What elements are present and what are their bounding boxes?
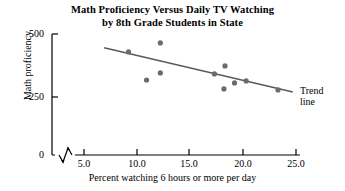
data-point: [232, 80, 237, 85]
data-point: [244, 78, 249, 83]
data-series-layer: [104, 40, 293, 92]
data-point: [221, 86, 226, 91]
chart-plot-area: [0, 0, 345, 191]
data-point: [275, 87, 280, 92]
trend-line: [104, 48, 293, 92]
axes: [52, 34, 300, 162]
chart-figure: Math Proficiency Versus Daily TV Watchin…: [0, 0, 345, 191]
data-point: [212, 71, 217, 76]
data-point: [158, 40, 163, 45]
data-point: [126, 49, 131, 54]
data-point: [144, 77, 149, 82]
data-point: [222, 63, 227, 68]
data-point: [158, 70, 163, 75]
